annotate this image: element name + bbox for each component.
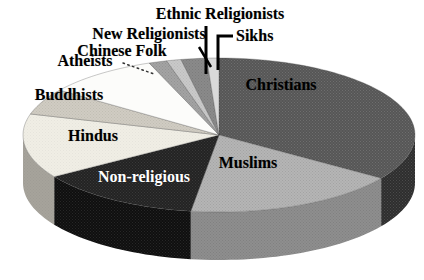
- slice-label-sikhs: Sikhs: [236, 28, 273, 44]
- slice-label-ethnic-religionists: Ethnic Religionists: [156, 6, 284, 22]
- slice-label-hindus: Hindus: [68, 128, 118, 144]
- slice-label-chinese-folk: Chinese Folk: [77, 43, 166, 59]
- slice-label-non-religious: Non-religious: [98, 169, 190, 185]
- world-religions-pie-chart: Christians Muslims Non-religious Hindus …: [0, 0, 424, 280]
- slice-label-buddhists: Buddhists: [35, 87, 104, 103]
- slice-label-muslims: Muslims: [219, 155, 278, 171]
- pie-3d: [0, 0, 424, 280]
- slice-label-new-religionists: New Religionists: [92, 26, 205, 42]
- slice-label-christians: Christians: [245, 77, 316, 93]
